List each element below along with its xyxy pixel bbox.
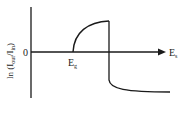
y-axis-label: ln (Iout/Iin) [5, 43, 16, 79]
decay-curve [109, 80, 170, 92]
origin-label: 0 [23, 47, 28, 58]
rising-curve [73, 21, 109, 52]
x-axis-label: Es [169, 47, 178, 59]
threshold-label: Eg [68, 57, 77, 69]
diagram-canvas: 0 ln (Iout/Iin) Eg Es [0, 0, 193, 119]
x-axis-arrowhead-icon [158, 49, 166, 56]
